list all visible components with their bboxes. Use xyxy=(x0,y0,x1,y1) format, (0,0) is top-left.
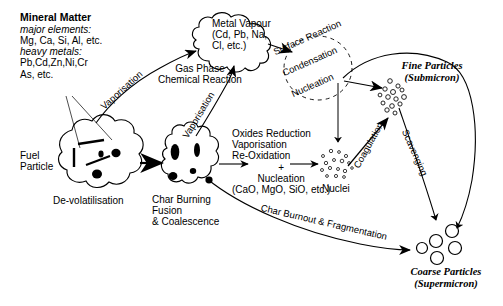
oxides-line3: Re-Oxidation xyxy=(232,150,330,161)
metal-vapour-line3: Cl, etc.) xyxy=(212,40,271,51)
oxides-line5: Nucleation xyxy=(232,173,330,184)
metal-vapour-label: Metal Vapour (Cd, Pb, Na, Cl, etc.) xyxy=(212,18,271,52)
fine-particles-label: Fine Particles (Submicron) xyxy=(377,60,487,84)
fine-particles-line1: Fine Particles xyxy=(377,60,487,72)
heavy-metals-values-1: Pb,Cd,Zn,Ni,Cr xyxy=(20,57,102,68)
char-line2: Fusion xyxy=(152,205,219,216)
mineral-matter-block: Mineral Matter major elements: Mg, Ca, S… xyxy=(20,12,102,80)
coarse-particles-label: Coarse Particles (Supermicron) xyxy=(392,266,500,290)
major-elements-values: Mg, Ca, Si, Al, etc. xyxy=(20,35,102,46)
metal-vapour-line2: (Cd, Pb, Na, xyxy=(212,29,271,40)
fuel-particle-shape xyxy=(59,96,144,188)
heavy-metals-values-2: As, etc. xyxy=(20,69,102,80)
oxides-species: (CaO, MgO, SiO, etc.) xyxy=(232,184,330,195)
fine-particles-cluster xyxy=(378,79,406,115)
nuclei-label: Nuclei xyxy=(322,183,350,194)
devolatilisation-label: De-volatilisation xyxy=(53,195,124,206)
oxides-block: Oxides Reduction Vaporisation Re-Oxidati… xyxy=(232,128,330,195)
gas-phase-line1: Gas Phase xyxy=(158,63,242,74)
coarse-particles-line2: (Supermicron) xyxy=(392,278,500,290)
metal-vapour-line1: Metal Vapour xyxy=(212,18,271,29)
gas-phase-label: Gas Phase Chemical Reaction xyxy=(158,63,242,85)
oxides-line1: Oxides Reduction xyxy=(232,128,330,139)
oxides-line2: Vaporisation xyxy=(232,139,330,150)
char-label: Char Burning Fusion & Coalescence xyxy=(152,194,219,228)
coarse-particles-cluster xyxy=(417,225,462,265)
major-elements-label: major elements: xyxy=(20,24,102,35)
fuel-particle-line1: Fuel xyxy=(20,150,53,161)
fine-particles-line2: (Submicron) xyxy=(377,72,487,84)
fuel-particle-label: Fuel Particle xyxy=(20,150,53,172)
fuel-particle-line2: Particle xyxy=(20,161,53,172)
char-line3: & Coalescence xyxy=(152,216,219,227)
char-line1: Char Burning xyxy=(152,194,219,205)
coarse-particles-line1: Coarse Particles xyxy=(392,266,500,278)
oxides-plus: + xyxy=(232,162,330,173)
diagram-canvas: Mineral Matter major elements: Mg, Ca, S… xyxy=(0,0,503,306)
arrow-vaporisation-mineral xyxy=(96,51,196,123)
heavy-metals-label: heavy metals: xyxy=(20,46,102,57)
gas-phase-line2: Chemical Reaction xyxy=(158,74,242,85)
mineral-matter-heading: Mineral Matter xyxy=(20,12,102,24)
